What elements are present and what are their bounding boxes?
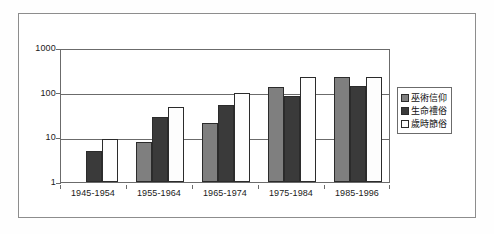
bar bbox=[86, 151, 102, 182]
legend-label: 生命禮俗 bbox=[411, 106, 447, 116]
bar bbox=[234, 93, 250, 182]
bar-group bbox=[127, 50, 193, 182]
bar bbox=[284, 96, 300, 182]
x-tick-mark bbox=[258, 185, 259, 189]
bar bbox=[366, 77, 382, 182]
x-tick-mark bbox=[192, 185, 193, 189]
legend-label: 巫術信仰 bbox=[411, 93, 447, 103]
legend-item: 歲時節俗 bbox=[401, 117, 447, 130]
x-tick-label: 1965-1974 bbox=[192, 188, 258, 198]
chart-legend: 巫術信仰生命禮俗歲時節俗 bbox=[397, 87, 452, 134]
x-axis: 1945-19541955-19641965-19741975-19841985… bbox=[60, 185, 390, 203]
plot-area bbox=[60, 49, 390, 183]
x-tick-mark bbox=[126, 185, 127, 189]
bar bbox=[102, 139, 118, 182]
bar bbox=[136, 142, 152, 182]
y-axis: 1101001000 bbox=[8, 49, 56, 183]
bar-group bbox=[325, 50, 391, 182]
x-tick-label: 1975-1984 bbox=[258, 188, 324, 198]
bar-group bbox=[61, 50, 127, 182]
x-tick-label: 1955-1964 bbox=[126, 188, 192, 198]
x-tick-mark bbox=[389, 185, 390, 189]
bar bbox=[334, 77, 350, 182]
legend-swatch-icon bbox=[401, 107, 409, 115]
x-tick-mark bbox=[60, 185, 61, 189]
bar-group bbox=[193, 50, 259, 182]
bar bbox=[218, 105, 234, 182]
y-tick-label-1: 1 bbox=[12, 178, 56, 187]
x-tick-label: 1945-1954 bbox=[60, 188, 126, 198]
legend-swatch-icon bbox=[401, 94, 409, 102]
bar bbox=[152, 117, 168, 182]
bar-group bbox=[259, 50, 325, 182]
y-tick-label-100: 100 bbox=[12, 89, 56, 98]
legend-item: 巫術信仰 bbox=[401, 91, 447, 104]
y-tick-label-1000: 1000 bbox=[12, 44, 56, 53]
legend-label: 歲時節俗 bbox=[411, 119, 447, 129]
legend-swatch-icon bbox=[401, 120, 409, 128]
bar bbox=[300, 77, 316, 182]
y-tick-label-10: 10 bbox=[12, 133, 56, 142]
x-tick-mark bbox=[324, 185, 325, 189]
bar bbox=[350, 86, 366, 182]
bar bbox=[268, 87, 284, 182]
bar bbox=[168, 107, 184, 182]
legend-item: 生命禮俗 bbox=[401, 104, 447, 117]
bar bbox=[202, 123, 218, 182]
chart-figure: 1101001000 1945-19541955-19641965-197419… bbox=[0, 0, 494, 234]
x-tick-label: 1985-1996 bbox=[324, 188, 390, 198]
